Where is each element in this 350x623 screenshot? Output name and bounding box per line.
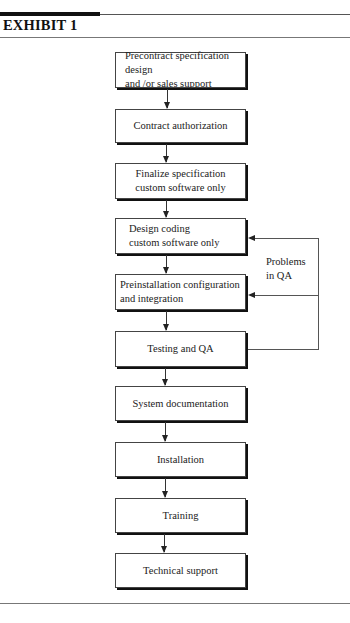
step-training: Training — [115, 498, 246, 533]
step-preinstallation-configuration: Preinstallation configuration and integr… — [115, 274, 246, 310]
feedback-line-from-testing — [248, 349, 318, 350]
arrow-down-icon — [166, 144, 167, 162]
step-label: Design coding custom software only — [129, 222, 219, 250]
step-label: Training — [163, 509, 199, 523]
step-testing-qa: Testing and QA — [115, 331, 246, 367]
arrow-down-icon — [166, 255, 167, 273]
step-label: Testing and QA — [147, 342, 213, 356]
step-label: Installation — [157, 453, 204, 467]
step-precontract-specification: Precontract specification design and /or… — [115, 52, 246, 88]
arrow-down-icon — [164, 534, 165, 552]
arrow-left-icon — [248, 292, 255, 298]
header-thin-rule — [100, 14, 350, 15]
step-contract-authorization: Contract authorization — [115, 109, 246, 143]
step-installation: Installation — [115, 442, 246, 477]
step-label: Technical support — [143, 564, 218, 578]
feedback-vertical-line — [318, 238, 319, 350]
arrow-down-icon — [166, 200, 167, 217]
feedback-line-to-design — [254, 238, 318, 239]
exhibit-title: EXHIBIT 1 — [3, 17, 77, 34]
arrow-down-icon — [166, 311, 167, 330]
arrow-down-icon — [167, 89, 168, 108]
step-system-documentation: System documentation — [115, 386, 246, 421]
feedback-label: Problems in QA — [266, 255, 306, 283]
step-label: Finalize specification custom software o… — [135, 167, 225, 195]
title-underline — [0, 37, 350, 38]
feedback-line-to-preinstallation — [254, 295, 318, 296]
header-thick-rule — [0, 12, 100, 16]
step-finalize-specification: Finalize specification custom software o… — [115, 163, 246, 199]
step-design-coding: Design coding custom software only — [115, 218, 246, 254]
step-label: Precontract specification design and /or… — [125, 49, 245, 91]
step-label: Contract authorization — [133, 119, 227, 133]
step-technical-support: Technical support — [115, 553, 246, 588]
arrow-left-icon — [248, 235, 255, 241]
arrow-down-icon — [165, 368, 166, 385]
step-label: Preinstallation configuration and integr… — [120, 278, 240, 306]
arrow-down-icon — [165, 422, 166, 441]
step-label: System documentation — [133, 397, 229, 411]
footer-rule — [0, 603, 350, 604]
arrow-down-icon — [165, 478, 166, 497]
